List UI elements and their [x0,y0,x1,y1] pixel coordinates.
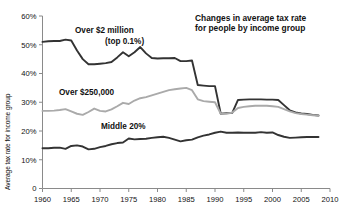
series-label-over-2-million-line1: Over $2 million [75,26,134,35]
x-tick-label: 1990 [207,195,224,204]
y-tick-label: 40% [21,69,36,78]
y-tick-label: 60% [21,12,36,21]
y-axis-title: Average tax rate for income group [4,93,12,190]
x-tick-label: 1980 [149,195,166,204]
x-tick-label: 1985 [178,195,195,204]
tax-rate-line-chart: Average tax rate for income group Change… [0,0,340,221]
y-tick-label: 10% [21,156,36,165]
chart-title-line-1: Changes in average tax rate [195,13,307,23]
x-tick-label: 1960 [34,195,51,204]
x-tick-label: 2010 [322,195,339,204]
y-tick-label: 30% [21,98,36,107]
y-tick-label: 20% [21,127,36,136]
x-tick-label: 1995 [235,195,252,204]
x-tick-label: 1970 [92,195,109,204]
x-tick-label: 1965 [63,195,80,204]
series-label-middle-20: Middle 20% [101,122,146,131]
y-tick-label: 0 [32,184,36,193]
x-tick-label: 2000 [264,195,281,204]
series-label-over-2-million-line2: (top 0.1%) [105,37,144,46]
x-tick-label: 1975 [120,195,137,204]
y-tick-label: 50% [21,41,36,50]
chart-title-line-2: for people by income group [195,23,305,33]
x-tick-label: 2005 [293,195,310,204]
series-label-over-250000: Over $250,000 [59,88,115,97]
